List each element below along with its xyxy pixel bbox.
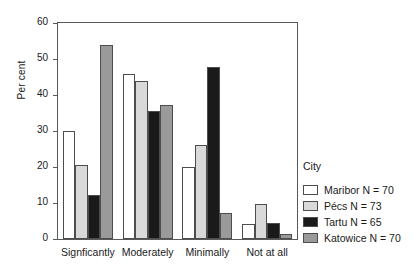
y-axis-tick-label: 0	[42, 232, 48, 243]
bar	[100, 45, 113, 239]
x-axis-tick-label: Not at all	[246, 246, 287, 258]
legend-title: City	[303, 160, 413, 172]
bar	[267, 223, 280, 239]
y-axis: 0102030405060	[0, 0, 57, 275]
bar	[255, 204, 268, 239]
y-axis-tick-label: 50	[37, 52, 48, 63]
legend-swatch	[303, 217, 318, 227]
x-axis-tick-label: Minimally	[185, 246, 229, 258]
bar	[135, 81, 148, 239]
bar	[63, 131, 76, 239]
bar	[207, 67, 220, 239]
legend-items: Maribor N = 70Pécs N = 73Tartu N = 65Kat…	[303, 183, 413, 244]
y-axis-tick-label: 40	[37, 88, 48, 99]
bar-group	[123, 23, 173, 239]
bar-group	[242, 23, 292, 239]
bar	[88, 195, 101, 239]
y-axis-tick-label: 60	[37, 16, 48, 27]
legend-item[interactable]: Pécs N = 73	[303, 199, 413, 212]
x-axis-tick-label: Signficantly	[61, 246, 115, 258]
bar-chart: Per cent 0102030405060 SignficantlyModer…	[0, 0, 413, 275]
bar	[148, 111, 161, 239]
y-axis-tick-label: 10	[37, 196, 48, 207]
bar	[75, 165, 88, 239]
legend-item-label: Tartu N = 65	[324, 216, 382, 228]
bar	[123, 74, 136, 239]
y-axis-tick-label: 30	[37, 124, 48, 135]
legend-item[interactable]: Tartu N = 65	[303, 215, 413, 228]
legend-item-label: Katowice N = 70	[324, 232, 401, 244]
bar	[160, 105, 173, 239]
legend-swatch	[303, 201, 318, 211]
legend-item-label: Pécs N = 73	[324, 200, 382, 212]
bars-layer	[58, 23, 297, 239]
bar	[280, 234, 293, 239]
bar-group	[63, 23, 113, 239]
bar	[242, 224, 255, 239]
legend-item[interactable]: Katowice N = 70	[303, 231, 413, 244]
bar	[195, 145, 208, 239]
bar	[182, 167, 195, 239]
legend-swatch	[303, 233, 318, 243]
legend: City Maribor N = 70Pécs N = 73Tartu N = …	[303, 160, 413, 247]
bar	[220, 213, 233, 239]
x-axis-tick-label: Moderately	[122, 246, 174, 258]
legend-swatch	[303, 185, 318, 195]
y-axis-tick-label: 20	[37, 160, 48, 171]
legend-item-label: Maribor N = 70	[324, 184, 394, 196]
legend-item[interactable]: Maribor N = 70	[303, 183, 413, 196]
x-axis: SignficantlyModeratelyMinimallyNot at al…	[58, 246, 297, 264]
bar-group	[182, 23, 232, 239]
